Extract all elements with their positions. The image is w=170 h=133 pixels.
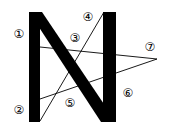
letter-n-right-bar [103, 12, 116, 122]
region-label-4: ④ [83, 10, 94, 24]
region-label-5: ⑤ [65, 96, 76, 110]
region-label-2: ② [14, 103, 25, 117]
letter-n-left-bar [29, 12, 40, 122]
line-lower-to-point-7 [40, 59, 157, 99]
letter-n-region-diagram: ① ② ③ ④ ⑤ ⑥ ⑦ [0, 0, 170, 133]
region-label-6: ⑥ [123, 86, 134, 100]
region-label-1: ① [14, 27, 25, 41]
region-label-7: ⑦ [145, 40, 156, 54]
region-label-3: ③ [70, 31, 81, 45]
